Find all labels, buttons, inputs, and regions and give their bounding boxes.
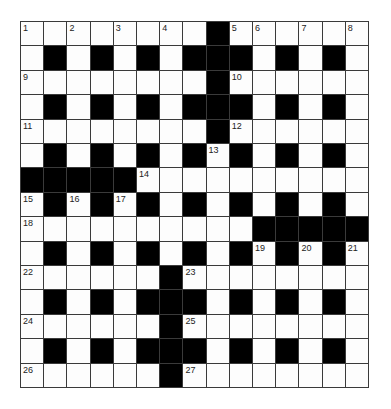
grid-cell-r9-c0[interactable] xyxy=(21,242,43,265)
letter-input[interactable] xyxy=(276,120,298,143)
grid-cell-r0-c0[interactable]: 1 xyxy=(21,22,43,45)
letter-input[interactable] xyxy=(137,71,159,94)
letter-input[interactable] xyxy=(323,364,345,387)
grid-cell-r10-c2[interactable] xyxy=(67,266,89,289)
letter-input[interactable] xyxy=(346,290,368,313)
letter-input[interactable] xyxy=(67,144,89,167)
grid-cell-r12-c4[interactable] xyxy=(114,315,136,338)
letter-input[interactable] xyxy=(230,120,252,143)
grid-cell-r2-c10[interactable] xyxy=(253,71,275,94)
grid-cell-r4-c6[interactable] xyxy=(160,120,182,143)
grid-cell-r8-c5[interactable] xyxy=(137,217,159,240)
letter-input[interactable] xyxy=(299,193,321,216)
grid-cell-r14-c8[interactable] xyxy=(207,364,229,387)
grid-cell-r2-c3[interactable] xyxy=(91,71,113,94)
grid-cell-r8-c6[interactable] xyxy=(160,217,182,240)
letter-input[interactable] xyxy=(183,217,205,240)
grid-cell-r9-c12[interactable]: 20 xyxy=(299,242,321,265)
letter-input[interactable] xyxy=(207,290,229,313)
grid-cell-r12-c5[interactable] xyxy=(137,315,159,338)
letter-input[interactable] xyxy=(137,364,159,387)
letter-input[interactable] xyxy=(299,242,321,265)
letter-input[interactable] xyxy=(91,217,113,240)
grid-cell-r0-c14[interactable]: 8 xyxy=(346,22,368,45)
grid-cell-r2-c7[interactable] xyxy=(183,71,205,94)
grid-cell-r8-c8[interactable] xyxy=(207,217,229,240)
letter-input[interactable] xyxy=(67,95,89,118)
grid-cell-r7-c14[interactable] xyxy=(346,193,368,216)
letter-input[interactable] xyxy=(253,22,275,45)
letter-input[interactable] xyxy=(137,315,159,338)
letter-input[interactable] xyxy=(230,71,252,94)
grid-cell-r6-c10[interactable] xyxy=(253,168,275,191)
grid-cell-r7-c0[interactable]: 15 xyxy=(21,193,43,216)
letter-input[interactable] xyxy=(114,22,136,45)
letter-input[interactable] xyxy=(253,315,275,338)
grid-cell-r9-c6[interactable] xyxy=(160,242,182,265)
letter-input[interactable] xyxy=(114,46,136,69)
letter-input[interactable] xyxy=(346,46,368,69)
letter-input[interactable] xyxy=(91,266,113,289)
letter-input[interactable] xyxy=(21,364,43,387)
letter-input[interactable] xyxy=(114,95,136,118)
grid-cell-r14-c1[interactable] xyxy=(44,364,66,387)
letter-input[interactable] xyxy=(276,71,298,94)
grid-cell-r1-c2[interactable] xyxy=(67,46,89,69)
letter-input[interactable] xyxy=(323,315,345,338)
letter-input[interactable] xyxy=(207,217,229,240)
grid-cell-r6-c9[interactable] xyxy=(230,168,252,191)
letter-input[interactable] xyxy=(253,95,275,118)
letter-input[interactable] xyxy=(21,217,43,240)
grid-cell-r14-c4[interactable] xyxy=(114,364,136,387)
letter-input[interactable] xyxy=(253,339,275,362)
grid-cell-r12-c10[interactable] xyxy=(253,315,275,338)
letter-input[interactable] xyxy=(346,266,368,289)
letter-input[interactable] xyxy=(44,120,66,143)
grid-cell-r5-c6[interactable] xyxy=(160,144,182,167)
grid-cell-r11-c10[interactable] xyxy=(253,290,275,313)
letter-input[interactable] xyxy=(253,168,275,191)
grid-cell-r5-c12[interactable] xyxy=(299,144,321,167)
letter-input[interactable] xyxy=(114,144,136,167)
letter-input[interactable] xyxy=(114,290,136,313)
grid-cell-r13-c8[interactable] xyxy=(207,339,229,362)
letter-input[interactable] xyxy=(91,120,113,143)
letter-input[interactable] xyxy=(276,168,298,191)
letter-input[interactable] xyxy=(137,217,159,240)
letter-input[interactable] xyxy=(230,266,252,289)
grid-cell-r14-c0[interactable]: 26 xyxy=(21,364,43,387)
grid-cell-r12-c1[interactable] xyxy=(44,315,66,338)
grid-cell-r10-c12[interactable] xyxy=(299,266,321,289)
grid-cell-r0-c5[interactable] xyxy=(137,22,159,45)
grid-cell-r4-c3[interactable] xyxy=(91,120,113,143)
grid-cell-r8-c0[interactable]: 18 xyxy=(21,217,43,240)
grid-cell-r10-c1[interactable] xyxy=(44,266,66,289)
grid-cell-r4-c5[interactable] xyxy=(137,120,159,143)
letter-input[interactable] xyxy=(183,168,205,191)
letter-input[interactable] xyxy=(299,364,321,387)
letter-input[interactable] xyxy=(160,144,182,167)
letter-input[interactable] xyxy=(114,339,136,362)
grid-cell-r2-c12[interactable] xyxy=(299,71,321,94)
grid-cell-r10-c11[interactable] xyxy=(276,266,298,289)
grid-cell-r12-c2[interactable] xyxy=(67,315,89,338)
grid-cell-r5-c8[interactable]: 13 xyxy=(207,144,229,167)
letter-input[interactable] xyxy=(207,315,229,338)
grid-cell-r13-c14[interactable] xyxy=(346,339,368,362)
grid-cell-r1-c0[interactable] xyxy=(21,46,43,69)
grid-cell-r9-c8[interactable] xyxy=(207,242,229,265)
grid-cell-r2-c9[interactable]: 10 xyxy=(230,71,252,94)
grid-cell-r4-c2[interactable] xyxy=(67,120,89,143)
grid-cell-r7-c8[interactable] xyxy=(207,193,229,216)
letter-input[interactable] xyxy=(276,364,298,387)
letter-input[interactable] xyxy=(253,364,275,387)
grid-cell-r7-c4[interactable]: 17 xyxy=(114,193,136,216)
grid-cell-r0-c2[interactable]: 2 xyxy=(67,22,89,45)
letter-input[interactable] xyxy=(346,315,368,338)
grid-cell-r14-c13[interactable] xyxy=(323,364,345,387)
grid-cell-r6-c8[interactable] xyxy=(207,168,229,191)
grid-cell-r0-c11[interactable] xyxy=(276,22,298,45)
letter-input[interactable] xyxy=(114,217,136,240)
letter-input[interactable] xyxy=(230,315,252,338)
letter-input[interactable] xyxy=(21,193,43,216)
